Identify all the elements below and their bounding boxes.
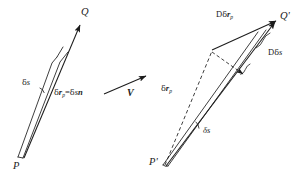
label-point-p-prime: P'	[149, 157, 158, 168]
right-dashed-delta-r-vector	[165, 51, 212, 165]
label-right-arc-length: δs	[203, 126, 210, 135]
label-point-q: Q	[81, 7, 89, 18]
right-element-outline	[163, 30, 266, 167]
triangle-closure-vector	[212, 52, 243, 74]
label-left-arc-length: δs	[22, 78, 30, 87]
label-rate-displacement: Dδrp	[216, 10, 233, 20]
label-right-displacement: δrp	[161, 84, 172, 94]
right-displacement-vector	[166, 22, 275, 166]
deformation-map-arrow	[104, 76, 146, 94]
label-left-displacement: δrp=δsn	[54, 88, 83, 98]
left-element-outline	[18, 47, 68, 158]
figure-canvas: Q P δs δrp=δsn V Q' P' Dδrp Dδs δrp δs	[0, 0, 302, 184]
label-rate-arc-length: Dδs	[268, 48, 282, 57]
label-point-q-prime: Q'	[280, 11, 290, 22]
label-point-p: P	[13, 161, 19, 172]
label-deformation-map: V	[127, 88, 134, 98]
